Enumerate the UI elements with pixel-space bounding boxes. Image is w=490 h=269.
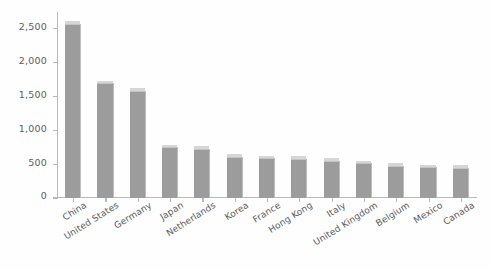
bar-column[interactable] xyxy=(97,12,113,198)
bar-column[interactable] xyxy=(259,12,275,198)
bar-column[interactable] xyxy=(65,12,81,198)
x-axis-label-text: Canada xyxy=(441,200,476,227)
x-axis-label-text: Italy xyxy=(325,200,347,219)
bar-top-face xyxy=(162,145,177,149)
y-axis-tick-label: 0 xyxy=(41,190,47,201)
x-axis-label-text: Korea xyxy=(223,200,250,222)
bar[interactable] xyxy=(453,168,469,198)
y-axis-tick-label: 2,000 xyxy=(19,55,47,66)
bar-top-face xyxy=(227,154,242,158)
bar-top-face xyxy=(453,165,468,169)
bar-top-face xyxy=(130,88,145,92)
bar[interactable] xyxy=(194,149,210,198)
y-axis-tick-label: 1,000 xyxy=(19,123,47,134)
bar-column[interactable] xyxy=(453,12,469,198)
bar-column[interactable] xyxy=(388,12,404,198)
bar-column[interactable] xyxy=(130,12,146,198)
bar[interactable] xyxy=(259,158,275,197)
bar-column[interactable] xyxy=(291,12,307,198)
y-axis-tick-label: 1,500 xyxy=(19,89,47,100)
bar-chart: $ billions 05001,0001,5002,0002,500 Chin… xyxy=(0,0,490,269)
bar-top-face xyxy=(259,156,274,160)
bar-column[interactable] xyxy=(420,12,436,198)
bar[interactable] xyxy=(291,159,307,198)
x-axis-label: Italy xyxy=(325,200,347,219)
bar-top-face xyxy=(291,156,306,160)
bar-top-face xyxy=(65,21,80,25)
bar-column[interactable] xyxy=(324,12,340,198)
bar-top-face xyxy=(356,161,371,165)
x-axis-label: Mexico xyxy=(411,200,443,225)
bar[interactable] xyxy=(388,166,404,198)
x-axis-label-text: Mexico xyxy=(411,200,443,225)
y-axis-tick-label: 2,500 xyxy=(19,21,47,32)
bar-column[interactable] xyxy=(227,12,243,198)
bar-top-face xyxy=(324,158,339,162)
bar[interactable] xyxy=(65,24,81,198)
bar-top-face xyxy=(194,146,209,150)
bar[interactable] xyxy=(130,91,146,198)
bar[interactable] xyxy=(420,167,436,197)
bar-top-face xyxy=(97,81,112,85)
x-axis-label-text: Belgium xyxy=(374,200,411,228)
bar[interactable] xyxy=(227,157,243,198)
plot-area: 05001,0001,5002,0002,500 xyxy=(57,12,477,198)
bar[interactable] xyxy=(162,147,178,197)
bar[interactable] xyxy=(324,161,340,198)
x-axis-label: Belgium xyxy=(374,200,411,228)
bar-column[interactable] xyxy=(356,12,372,198)
x-axis-label: Canada xyxy=(441,200,476,227)
bar-column[interactable] xyxy=(162,12,178,198)
x-axis-label: Korea xyxy=(223,200,250,222)
bar-top-face xyxy=(388,163,403,167)
y-axis-tick-label: 500 xyxy=(28,157,47,168)
bar-series xyxy=(57,12,477,198)
bar[interactable] xyxy=(97,83,113,197)
bar[interactable] xyxy=(356,163,372,197)
bar-column[interactable] xyxy=(194,12,210,198)
bar-top-face xyxy=(420,165,435,169)
x-axis-labels: ChinaUnited StatesGermanyJapanNetherland… xyxy=(57,200,487,266)
